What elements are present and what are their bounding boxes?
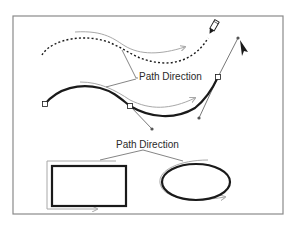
path-direction-label-top: Path Direction	[139, 72, 202, 82]
handle-point-right	[197, 116, 200, 119]
handle-point-mid	[150, 127, 153, 130]
path-direction-label-bottom: Path Direction	[116, 140, 179, 150]
anchor-point-mid	[128, 104, 133, 109]
path-direction-diagram	[0, 0, 298, 226]
anchor-point-end	[216, 75, 221, 80]
handle-point-top	[236, 36, 239, 39]
anchor-point-start	[43, 102, 48, 107]
